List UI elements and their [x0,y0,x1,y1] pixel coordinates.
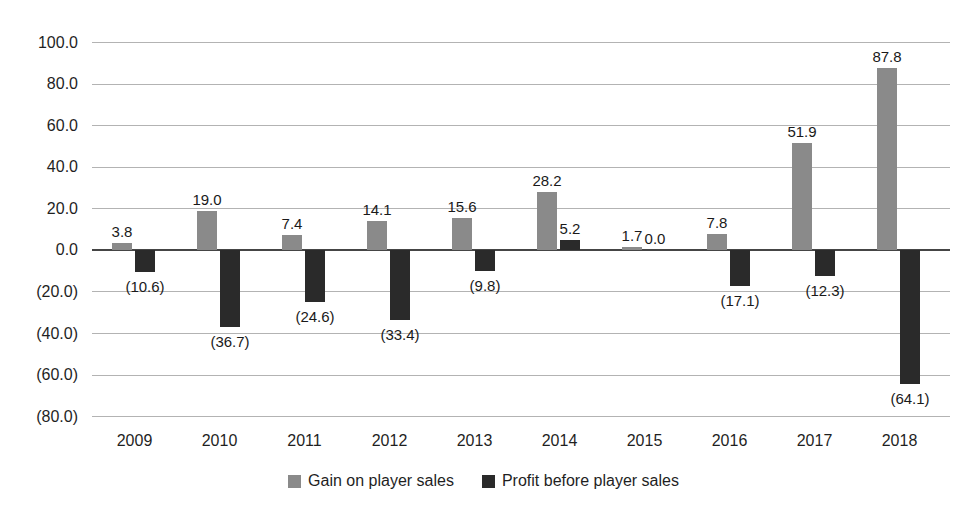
bar-value-label: 15.6 [430,198,494,216]
bar [475,250,495,270]
bar-value-label: 14.1 [345,201,409,219]
legend-item: Profit before player sales [482,472,679,490]
bar [135,250,155,272]
bar [707,234,727,250]
y-axis-tick-label: (60.0) [0,366,78,384]
bar [792,143,812,251]
legend-swatch [482,475,495,488]
plot-area: 100.080.060.040.020.00.0(20.0)(40.0)(60.… [0,0,967,521]
bar-value-label: 19.0 [175,191,239,209]
bar-value-label: 3.8 [90,223,154,241]
bar-value-label: (64.1) [878,390,942,408]
y-axis-tick-label: (80.0) [0,408,78,426]
bar [877,68,897,250]
x-axis-tick-label: 2009 [100,432,170,450]
x-axis-tick-label: 2017 [780,432,850,450]
x-axis-tick-label: 2010 [185,432,255,450]
bar [197,211,217,250]
bar-value-label: (17.1) [708,292,772,310]
gridline [92,42,950,43]
bar-value-label: 5.2 [538,220,602,238]
bar-value-label: (10.6) [113,278,177,296]
y-axis-tick-label: (40.0) [0,325,78,343]
x-axis-tick-label: 2015 [610,432,680,450]
bar [900,250,920,383]
x-axis-tick-label: 2013 [440,432,510,450]
bar-chart: 100.080.060.040.020.00.0(20.0)(40.0)(60.… [0,0,967,521]
x-axis-tick-label: 2016 [695,432,765,450]
y-axis-tick-label: (20.0) [0,283,78,301]
legend: Gain on player sales Profit before playe… [0,472,967,490]
x-axis-tick-label: 2018 [865,432,935,450]
gridline [92,167,950,168]
bar-value-label: 28.2 [515,172,579,190]
y-axis-tick-label: 60.0 [0,117,78,135]
y-axis-tick-label: 80.0 [0,75,78,93]
legend-item: Gain on player sales [288,472,454,490]
bar [815,250,835,276]
legend-swatch [288,475,301,488]
y-axis-tick-label: 40.0 [0,158,78,176]
y-axis-tick-label: 20.0 [0,200,78,218]
bar-value-label: (36.7) [198,333,262,351]
bar [220,250,240,326]
bar [282,235,302,250]
bar [730,250,750,286]
bar-value-label: (12.3) [793,282,857,300]
bar [367,221,387,250]
bar-value-label: (9.8) [453,277,517,295]
bar [305,250,325,301]
bar [452,218,472,250]
bar-value-label: 7.4 [260,215,324,233]
gridline [92,84,950,85]
y-axis-tick-label: 0.0 [0,241,78,259]
legend-label: Gain on player sales [308,472,454,490]
bar-value-label: (33.4) [368,326,432,344]
x-axis-tick-label: 2014 [525,432,595,450]
bar-value-label: (24.6) [283,308,347,326]
bar [560,240,580,251]
bar-value-label: 0.0 [623,230,687,248]
bar-value-label: 87.8 [855,48,919,66]
legend-label: Profit before player sales [502,472,679,490]
y-axis-tick-label: 100.0 [0,34,78,52]
gridline [92,375,950,376]
bar [112,243,132,251]
x-axis-tick-label: 2012 [355,432,425,450]
x-axis-tick-label: 2011 [270,432,340,450]
bar-value-label: 51.9 [770,123,834,141]
bar [390,250,410,319]
bar-value-label: 7.8 [685,214,749,232]
gridline [92,416,950,417]
